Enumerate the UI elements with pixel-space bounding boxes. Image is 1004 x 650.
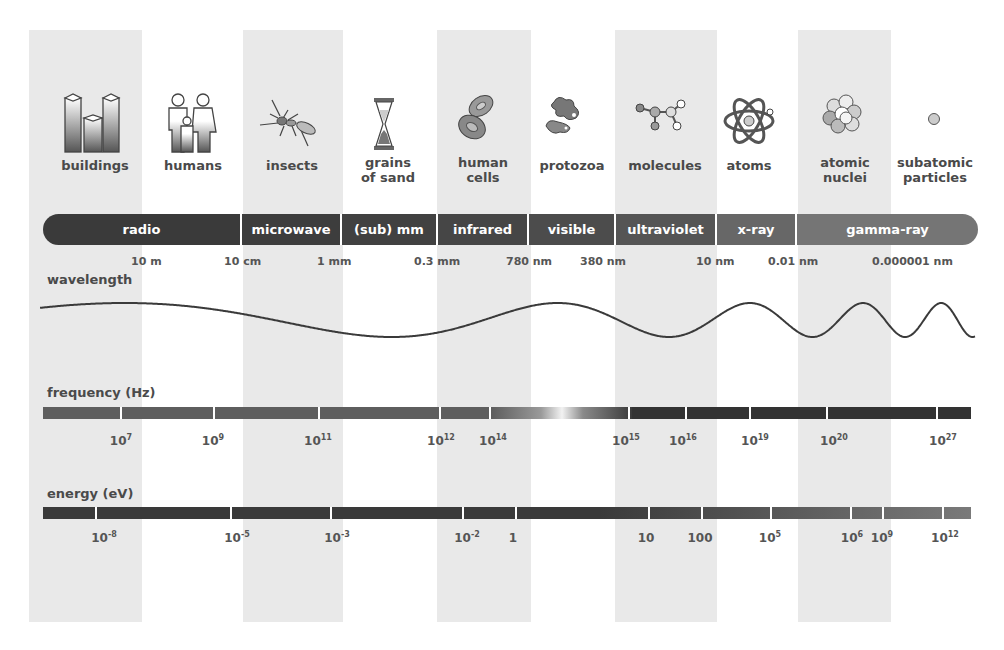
energy-tick: 105 (759, 530, 781, 545)
energy-tick: 106 (841, 530, 863, 545)
object-label-line1: grains (365, 155, 411, 170)
band-sub-mm: (sub) mm (342, 214, 438, 245)
atom-icon (722, 92, 776, 150)
frequency-tick: 109 (202, 433, 224, 448)
frequency-tick: 107 (110, 433, 132, 448)
energy-tick: 109 (871, 530, 893, 545)
wavelength-tick: 10 cm (224, 255, 261, 268)
frequency-tick: 1027 (929, 433, 957, 448)
wavelength-wave (40, 290, 980, 350)
object-label-subatomic-particles: subatomicparticles (880, 155, 990, 185)
object-label-line1: subatomic (897, 155, 973, 170)
wavelength-tick: 780 nm (506, 255, 552, 268)
object-label-grains-of-sand: grainsof sand (333, 155, 443, 185)
wavelength-tick: 0.000001 nm (872, 255, 953, 268)
wavelength-tick: 10 m (131, 255, 162, 268)
particle-icon (927, 112, 941, 126)
wavelength-tick: 0.3 mm (414, 255, 460, 268)
wavelength-title: wavelength (47, 272, 132, 287)
energy-tick: 10-3 (324, 530, 350, 545)
hourglass-icon (372, 92, 396, 154)
band-gamma-ray: gamma-ray (797, 214, 978, 245)
band-infrared: infrared (438, 214, 529, 245)
protozoa-icon (540, 92, 584, 140)
energy-tick: 10-8 (91, 530, 117, 545)
frequency-bar (43, 407, 971, 419)
frequency-tick: 1016 (669, 433, 697, 448)
object-label-line1: human (458, 155, 508, 170)
object-label-humans: humans (138, 158, 248, 173)
humans-icon (165, 92, 220, 154)
energy-tick: 100 (687, 530, 712, 545)
cells-icon (457, 92, 497, 142)
molecule-icon (635, 92, 691, 136)
energy-tick: 1 (509, 530, 517, 545)
frequency-tick: 1019 (741, 433, 769, 448)
energy-title: energy (eV) (47, 486, 133, 501)
energy-tick: 1012 (931, 530, 959, 545)
object-label-line2: cells (466, 170, 499, 185)
insect-icon (258, 92, 323, 154)
object-label-line2: nuclei (823, 170, 867, 185)
frequency-tick: 1011 (304, 433, 332, 448)
band-microwave: microwave (242, 214, 342, 245)
frequency-tick: 1020 (820, 433, 848, 448)
spectrum-band: radio microwave (sub) mm infrared visibl… (43, 214, 978, 245)
energy-tick: 10-2 (454, 530, 480, 545)
wavelength-tick: 1 mm (317, 255, 351, 268)
object-label-insects: insects (237, 158, 347, 173)
energy-tick: 10-5 (224, 530, 250, 545)
frequency-title: frequency (Hz) (47, 385, 156, 400)
object-label-line1: atomic (820, 155, 870, 170)
band-x-ray: x-ray (717, 214, 797, 245)
wavelength-tick: 10 nm (696, 255, 734, 268)
band-radio: radio (43, 214, 242, 245)
energy-bar (43, 507, 971, 519)
band-ultraviolet: ultraviolet (616, 214, 717, 245)
object-label-line2: particles (903, 170, 967, 185)
wavelength-tick: 380 nm (580, 255, 626, 268)
frequency-tick: 1014 (479, 433, 507, 448)
object-label-line2: of sand (361, 170, 415, 185)
frequency-tick: 1015 (612, 433, 640, 448)
object-label-atoms: atoms (694, 158, 804, 173)
band-visible: visible (529, 214, 616, 245)
frequency-tick: 1012 (427, 433, 455, 448)
object-label-buildings: buildings (40, 158, 150, 173)
wavelength-tick: 0.01 nm (768, 255, 818, 268)
buildings-icon (62, 92, 124, 154)
nucleus-icon (820, 92, 864, 136)
energy-tick: 10 (638, 530, 655, 545)
